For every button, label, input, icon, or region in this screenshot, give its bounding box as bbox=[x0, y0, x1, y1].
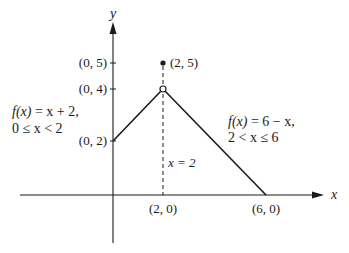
dashed-line-x-2: x = 2 bbox=[163, 66, 196, 195]
filled-point-icon bbox=[160, 60, 165, 65]
piece-1-segment bbox=[113, 92, 161, 142]
y-axis: y bbox=[108, 6, 117, 243]
piece-2-formula-prefix: f(x) bbox=[228, 114, 248, 130]
piece-1-formula-prefix: f(x) bbox=[12, 104, 32, 120]
filled-point-label: (2, 5) bbox=[170, 55, 198, 70]
y-tick-label-5: (0, 5) bbox=[79, 55, 107, 70]
x-tick-label-6: (6, 0) bbox=[252, 201, 280, 216]
y-tick-label-4: (0, 4) bbox=[79, 81, 107, 96]
piece-1-annotation: f(x) = x + 2, 0 ≤ x < 2 bbox=[12, 104, 79, 136]
y-tick-label-2: (0, 2) bbox=[79, 133, 107, 148]
piecewise-graph: x y (0, 5) (0, 4) (0, 2) (2, 0) (6, 0) x… bbox=[0, 0, 349, 253]
x-tick-label-2: (2, 0) bbox=[149, 201, 177, 216]
svg-text:f(x) = x + 2,: f(x) = x + 2, bbox=[12, 104, 79, 120]
piece-2-formula-rest: = 6 − x, bbox=[247, 114, 294, 129]
open-point-icon bbox=[160, 86, 166, 92]
x-ticks: (2, 0) (6, 0) bbox=[149, 201, 280, 216]
x-axis-label: x bbox=[330, 187, 338, 202]
y-axis-label: y bbox=[108, 6, 117, 21]
svg-text:f(x) = 6 − x,: f(x) = 6 − x, bbox=[228, 114, 295, 130]
piece-1-domain: 0 ≤ x < 2 bbox=[12, 121, 63, 136]
y-axis-arrow-icon bbox=[110, 22, 117, 34]
x-axis: x bbox=[20, 187, 338, 202]
x-axis-arrow-icon bbox=[312, 192, 324, 199]
piece-2-domain: 2 < x ≤ 6 bbox=[228, 130, 279, 145]
piece-1-formula-rest: = x + 2, bbox=[31, 104, 78, 119]
piece-2-annotation: f(x) = 6 − x, 2 < x ≤ 6 bbox=[228, 114, 295, 145]
y-ticks: (0, 5) (0, 4) (0, 2) bbox=[79, 55, 116, 148]
dashed-line-label: x = 2 bbox=[167, 155, 196, 170]
